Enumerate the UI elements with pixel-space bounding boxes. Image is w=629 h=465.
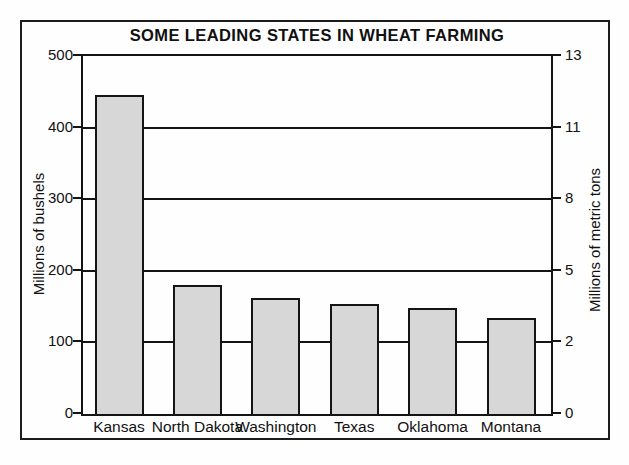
bar-texas bbox=[330, 304, 379, 416]
category-label-montana: Montana bbox=[481, 418, 541, 436]
gridline-300 bbox=[83, 198, 551, 200]
right-tick-400 bbox=[553, 126, 561, 128]
bar-north-dakota bbox=[173, 285, 222, 416]
gridline-100 bbox=[83, 341, 551, 343]
bar-kansas bbox=[95, 95, 144, 416]
bar-oklahoma bbox=[408, 308, 457, 416]
bar-washington bbox=[251, 298, 300, 416]
left-axis-tick-label-300: 300 bbox=[31, 189, 73, 207]
left-axis-tick-label-500: 500 bbox=[31, 46, 73, 64]
gridline-200 bbox=[83, 270, 551, 272]
left-tick-500 bbox=[73, 54, 81, 56]
chart-title: SOME LEADING STATES IN WHEAT FARMING bbox=[81, 26, 553, 45]
right-axis-tick-label-5: 5 bbox=[565, 261, 601, 279]
category-label-north-dakota: North Dakota bbox=[152, 418, 243, 436]
right-axis-tick-label-0: 0 bbox=[565, 404, 601, 422]
left-axis-tick-label-400: 400 bbox=[31, 118, 73, 136]
left-tick-100 bbox=[73, 340, 81, 342]
right-axis-tick-label-11: 11 bbox=[565, 118, 601, 136]
right-tick-500 bbox=[553, 54, 561, 56]
left-axis-tick-label-100: 100 bbox=[31, 332, 73, 350]
gridline-400 bbox=[83, 127, 551, 129]
category-label-kansas: Kansas bbox=[93, 418, 145, 436]
right-tick-0 bbox=[553, 412, 561, 414]
category-label-oklahoma: Oklahoma bbox=[397, 418, 468, 436]
left-tick-300 bbox=[73, 197, 81, 199]
category-label-texas: Texas bbox=[334, 418, 375, 436]
wheat-farming-bar-chart: SOME LEADING STATES IN WHEAT FARMING Mil… bbox=[0, 0, 629, 465]
category-label-washington: Washington bbox=[235, 418, 316, 436]
right-tick-300 bbox=[553, 197, 561, 199]
right-axis-tick-label-13: 13 bbox=[565, 46, 601, 64]
right-axis-tick-label-2: 2 bbox=[565, 332, 601, 350]
left-tick-0 bbox=[73, 412, 81, 414]
plot-area bbox=[81, 54, 553, 416]
bar-montana bbox=[487, 318, 536, 416]
left-tick-200 bbox=[73, 269, 81, 271]
left-axis-tick-label-200: 200 bbox=[31, 261, 73, 279]
left-axis-tick-label-0: 0 bbox=[31, 404, 73, 422]
right-axis-tick-label-8: 8 bbox=[565, 189, 601, 207]
left-tick-400 bbox=[73, 126, 81, 128]
right-tick-100 bbox=[553, 340, 561, 342]
right-tick-200 bbox=[553, 269, 561, 271]
